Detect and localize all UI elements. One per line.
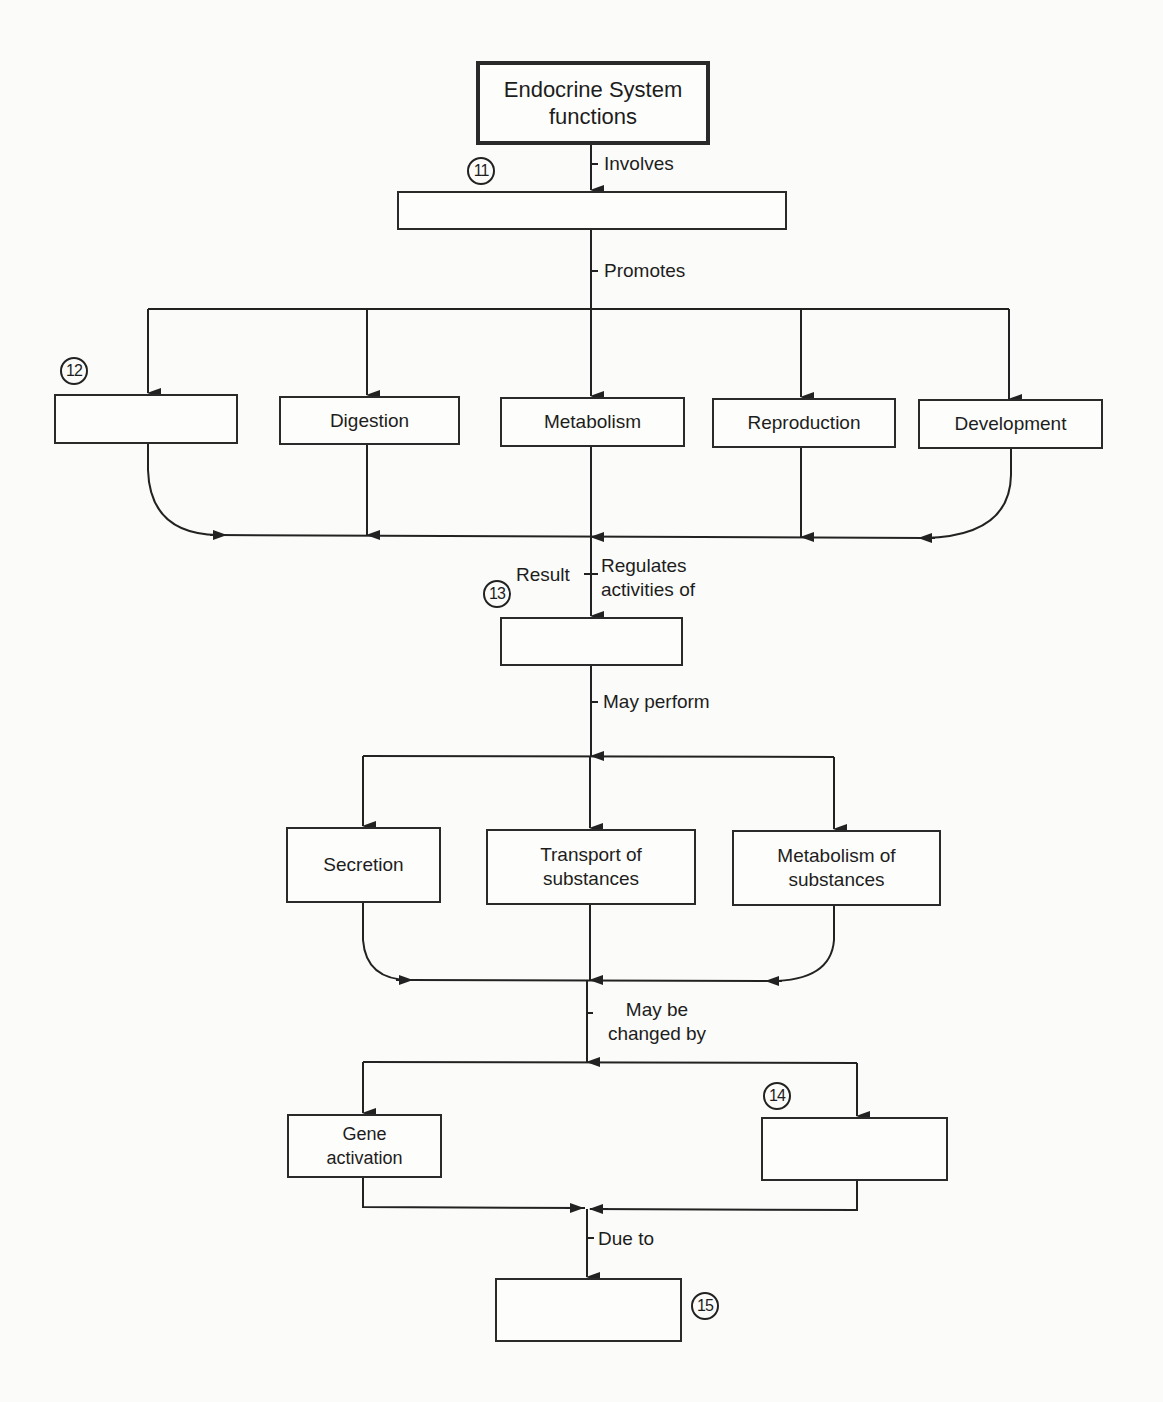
endocrine-functions-box: Endocrine System functions	[476, 61, 710, 145]
link-promotes: Promotes	[604, 259, 685, 283]
box-digestion: Digestion	[279, 396, 460, 445]
box-gene-activation: Gene activation	[287, 1114, 442, 1178]
box-metabolism-substances: Metabolism of substances	[732, 830, 941, 906]
endocrine-functions-label: Endocrine System functions	[480, 76, 706, 130]
link-may-be-changed-by: May be changed by	[597, 998, 717, 1046]
link-may-perform: May perform	[603, 690, 710, 714]
blank-box-11[interactable]	[397, 191, 787, 230]
marker-14: 14	[763, 1082, 791, 1110]
link-result: Result	[516, 563, 570, 587]
box-transport: Transport of substances	[486, 829, 696, 905]
box-metabolism: Metabolism	[500, 397, 685, 447]
link-involves: Involves	[604, 152, 674, 176]
blank-box-15[interactable]	[495, 1278, 682, 1342]
link-regulates: Regulates activities of	[601, 554, 711, 602]
blank-box-13[interactable]	[500, 617, 683, 666]
marker-13: 13	[483, 580, 511, 608]
blank-box-14[interactable]	[761, 1117, 948, 1181]
box-development: Development	[918, 399, 1103, 449]
box-reproduction: Reproduction	[712, 398, 896, 448]
marker-11: 11	[467, 157, 495, 185]
marker-12: 12	[60, 357, 88, 385]
link-due-to: Due to	[598, 1227, 654, 1251]
blank-box-12[interactable]	[54, 394, 238, 444]
marker-15: 15	[691, 1292, 719, 1320]
box-secretion: Secretion	[286, 827, 441, 903]
